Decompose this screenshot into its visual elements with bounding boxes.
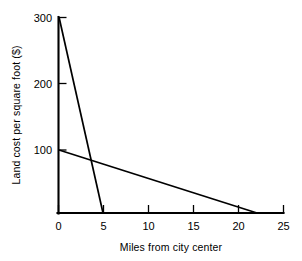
y-tick-label-200: 200 <box>34 78 52 90</box>
x-tick-label-5: 5 <box>100 220 106 232</box>
y-axis-title: Land cost per square foot ($) <box>10 45 22 184</box>
x-tick-label-20: 20 <box>232 220 244 232</box>
chart-figure: 100 200 300 0 5 10 15 20 25 Miles from c… <box>0 0 302 261</box>
x-axis-title: Miles from city center <box>120 241 223 253</box>
x-tick-label-0: 0 <box>55 220 61 232</box>
y-tick-label-300: 300 <box>34 12 52 24</box>
x-tick-label-25: 25 <box>277 220 289 232</box>
x-tick-label-10: 10 <box>142 220 154 232</box>
line-chart: 100 200 300 0 5 10 15 20 25 Miles from c… <box>0 0 302 261</box>
x-tick-label-15: 15 <box>187 220 199 232</box>
y-tick-label-100: 100 <box>34 144 52 156</box>
